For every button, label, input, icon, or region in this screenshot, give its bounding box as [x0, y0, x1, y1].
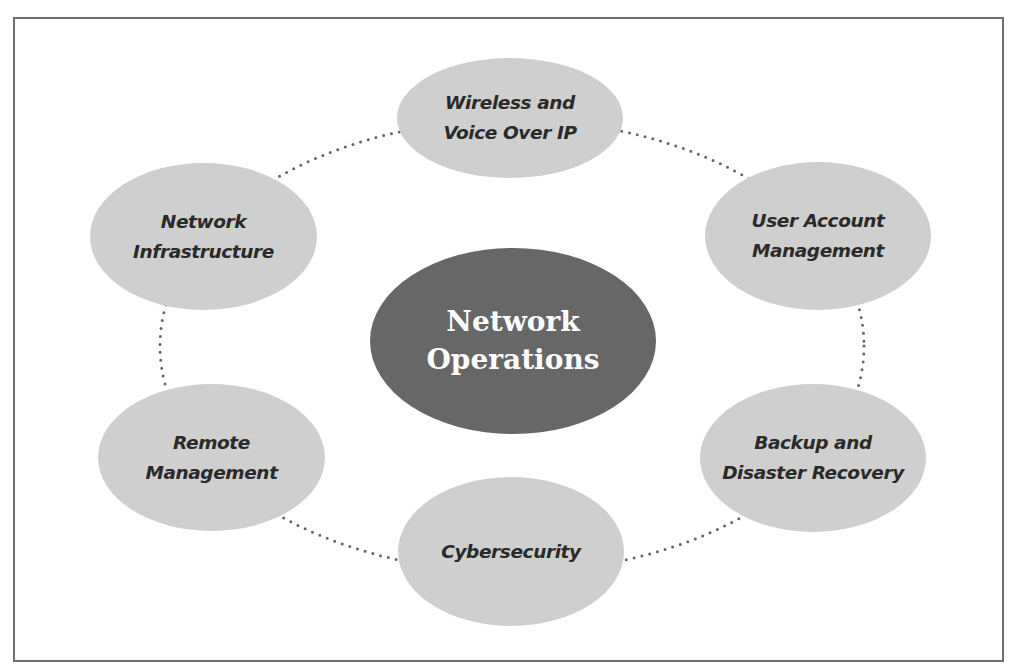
node-remote-management: Remote Management [98, 384, 325, 531]
node-backup-disaster-recovery: Backup and Disaster Recovery [700, 384, 926, 532]
center-node-label-line-1: Network [426, 303, 599, 341]
node-label-line-1: User Account [752, 206, 885, 236]
node-label-line-1: Backup and [722, 428, 904, 458]
node-label-line-2: Management [145, 458, 277, 488]
node-network-infrastructure: Network Infrastructure [90, 163, 317, 310]
node-label-line-2: Management [752, 236, 885, 266]
node-label-line-1: Cybersecurity [441, 537, 580, 567]
node-label-line-1: Wireless and [443, 88, 576, 118]
node-label-line-2: Disaster Recovery [722, 458, 904, 488]
node-wireless-voip: Wireless and Voice Over IP [397, 58, 623, 178]
node-label-line-2: Infrastructure [133, 237, 274, 267]
node-label-line-1: Network [133, 207, 274, 237]
node-label-line-2: Voice Over IP [443, 118, 576, 148]
node-cybersecurity: Cybersecurity [398, 477, 624, 626]
node-label-line-1: Remote [145, 428, 277, 458]
center-node-network-operations: Network Operations [370, 248, 656, 434]
center-node-label-line-2: Operations [426, 341, 599, 379]
node-user-account-management: User Account Management [705, 162, 931, 310]
